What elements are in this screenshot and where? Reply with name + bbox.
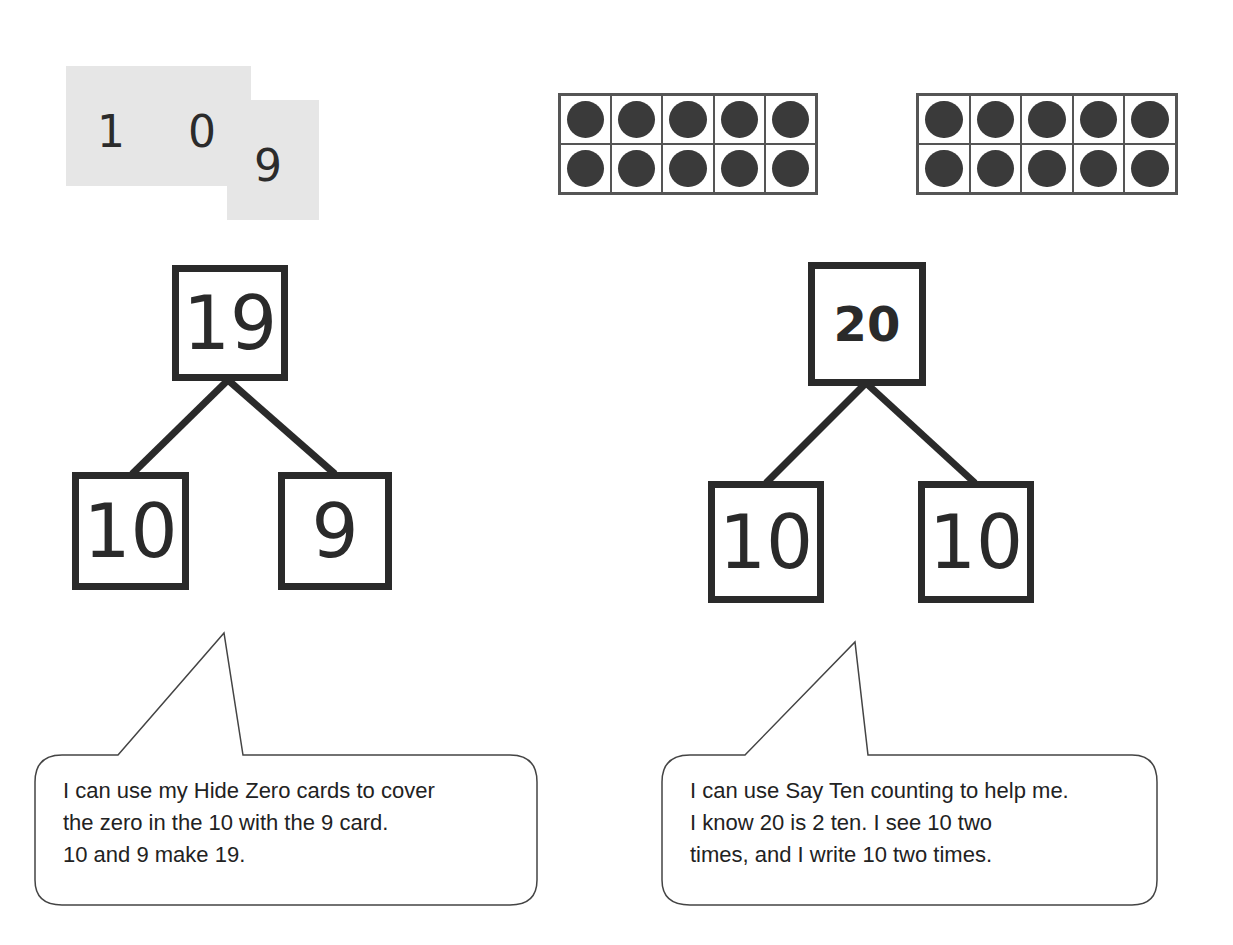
bond-whole-value: 20 — [815, 269, 919, 379]
bond-whole-box-20: 20 — [808, 262, 926, 386]
bond-part-box-9: 9 — [278, 472, 392, 590]
bond-part-box-10-right: 10 — [918, 481, 1034, 603]
bond-part-box-10-left: 10 — [708, 481, 824, 603]
bond-whole-box-19: 19 — [172, 265, 288, 381]
bond-part-value: 10 — [925, 488, 1027, 596]
left-callout-text: I can use my Hide Zero cards to cover th… — [63, 775, 533, 871]
bond-part-value: 10 — [79, 479, 182, 583]
bond-part-value: 9 — [285, 479, 385, 583]
bond-whole-value: 19 — [179, 272, 281, 374]
bond-part-box-10-left: 10 — [72, 472, 189, 590]
bond-part-value: 10 — [715, 488, 817, 596]
right-callout-text: I can use Say Ten counting to help me. I… — [690, 775, 1155, 871]
